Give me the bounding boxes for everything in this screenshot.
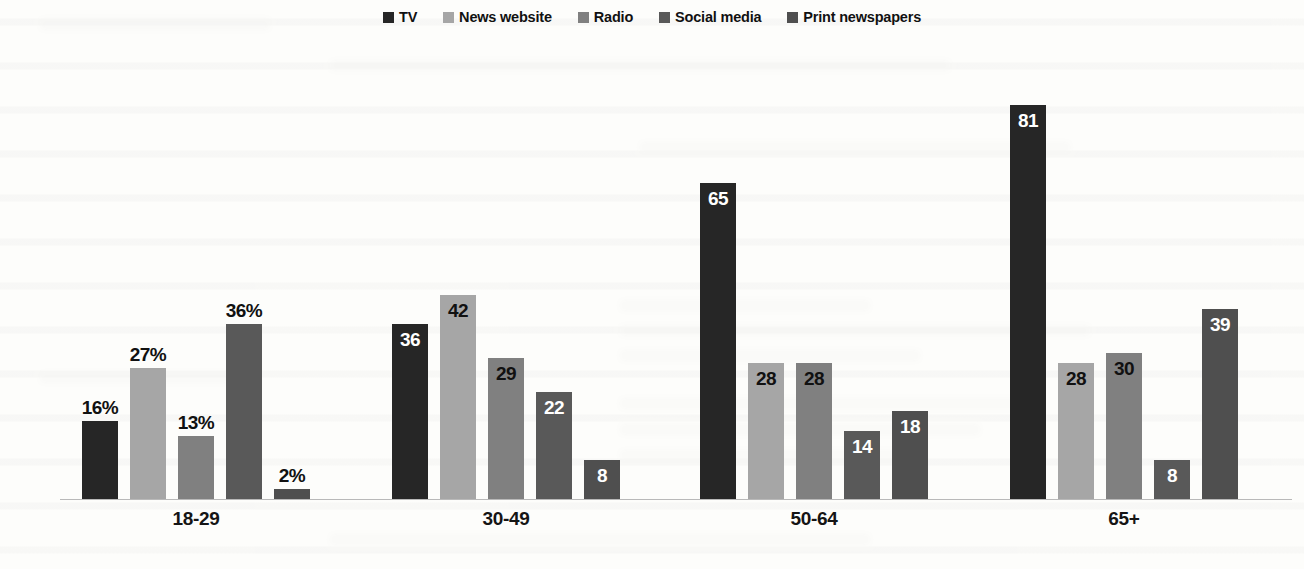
bar-18-29-tv[interactable]: 16% xyxy=(82,61,118,499)
category-label-30-49: 30-49 xyxy=(392,508,620,530)
bar-rect[interactable]: 28 xyxy=(1058,363,1094,499)
bar-value-label: 36% xyxy=(221,301,267,320)
bar-rect[interactable]: 8 xyxy=(1154,460,1190,499)
x-axis-category-labels: 18-2930-4950-6465+ xyxy=(0,508,1304,548)
legend-swatch-radio xyxy=(578,12,589,23)
bar-group-30-49: 364229228 xyxy=(392,61,620,499)
legend-item-radio[interactable]: Radio xyxy=(578,9,633,25)
bar-rect[interactable]: 81 xyxy=(1010,105,1046,499)
bar-30-49-print-newspapers[interactable]: 8 xyxy=(584,61,620,499)
bar-group-bars: 16%27%13%36%2% xyxy=(82,61,310,499)
legend-label: Social media xyxy=(675,9,761,25)
legend-item-print-newspapers[interactable]: Print newspapers xyxy=(787,9,921,25)
category-label-50-64: 50-64 xyxy=(700,508,928,530)
bar-rect[interactable]: 36 xyxy=(392,324,428,499)
bar-50-64-tv[interactable]: 65 xyxy=(700,61,736,499)
category-label-18-29: 18-29 xyxy=(82,508,310,530)
bar-value-label: 36 xyxy=(387,330,433,349)
bar-rect[interactable]: 39 xyxy=(1202,309,1238,499)
bar-18-29-social-media[interactable]: 36% xyxy=(226,61,262,499)
bar-rect[interactable]: 65 xyxy=(700,183,736,499)
bar-65+-print-newspapers[interactable]: 39 xyxy=(1202,61,1238,499)
grouped-bar-chart: TVNews websiteRadioSocial mediaPrint new… xyxy=(0,0,1304,569)
bar-rect[interactable]: 13% xyxy=(178,436,214,499)
bar-group-50-64: 6528281418 xyxy=(700,61,928,499)
legend-swatch-tv xyxy=(383,12,394,23)
legend-item-social-media[interactable]: Social media xyxy=(659,9,761,25)
legend-swatch-social-media xyxy=(659,12,670,23)
bar-value-label: 14 xyxy=(839,437,885,456)
legend-swatch-print-newspapers xyxy=(787,12,798,23)
bar-rect[interactable]: 18 xyxy=(892,411,928,499)
bar-50-64-radio[interactable]: 28 xyxy=(796,61,832,499)
bar-65+-news-website[interactable]: 28 xyxy=(1058,61,1094,499)
bar-rect[interactable]: 28 xyxy=(796,363,832,499)
bar-rect[interactable]: 29 xyxy=(488,358,524,499)
bar-rect[interactable]: 36% xyxy=(226,324,262,499)
legend-label: News website xyxy=(459,9,552,25)
bar-value-label: 29 xyxy=(483,364,529,383)
bar-value-label: 28 xyxy=(791,369,837,388)
bar-18-29-print-newspapers[interactable]: 2% xyxy=(274,61,310,499)
legend-swatch-news-website xyxy=(443,12,454,23)
bar-group-18-29: 16%27%13%36%2% xyxy=(82,61,310,499)
bar-rect[interactable]: 2% xyxy=(274,489,310,499)
plot-area: 16%27%13%36%2%36422922865282814188128308… xyxy=(0,60,1304,500)
bar-group-65+: 812830839 xyxy=(1010,61,1238,499)
bar-50-64-print-newspapers[interactable]: 18 xyxy=(892,61,928,499)
bar-value-label: 22 xyxy=(531,398,577,417)
bar-50-64-social-media[interactable]: 14 xyxy=(844,61,880,499)
bar-rect[interactable]: 42 xyxy=(440,295,476,499)
bar-rect[interactable]: 16% xyxy=(82,421,118,499)
bar-value-label: 28 xyxy=(743,369,789,388)
bar-value-label: 18 xyxy=(887,417,933,436)
bar-value-label: 65 xyxy=(695,189,741,208)
bar-30-49-news-website[interactable]: 42 xyxy=(440,61,476,499)
legend-label: Print newspapers xyxy=(803,9,921,25)
bar-18-29-radio[interactable]: 13% xyxy=(178,61,214,499)
bar-group-bars: 812830839 xyxy=(1010,61,1238,499)
bar-value-label: 39 xyxy=(1197,315,1243,334)
bar-value-label: 13% xyxy=(173,413,219,432)
bar-rect[interactable]: 30 xyxy=(1106,353,1142,499)
chart-legend: TVNews websiteRadioSocial mediaPrint new… xyxy=(0,5,1304,29)
bar-30-49-social-media[interactable]: 22 xyxy=(536,61,572,499)
bar-30-49-tv[interactable]: 36 xyxy=(392,61,428,499)
bar-rect[interactable]: 27% xyxy=(130,368,166,499)
category-label-65+: 65+ xyxy=(1010,508,1238,530)
bar-value-label: 8 xyxy=(1149,466,1195,485)
bar-value-label: 81 xyxy=(1005,111,1051,130)
bar-18-29-news-website[interactable]: 27% xyxy=(130,61,166,499)
legend-label: TV xyxy=(399,9,417,25)
bar-rect[interactable]: 22 xyxy=(536,392,572,499)
bar-65+-radio[interactable]: 30 xyxy=(1106,61,1142,499)
bar-50-64-news-website[interactable]: 28 xyxy=(748,61,784,499)
legend-item-news-website[interactable]: News website xyxy=(443,9,552,25)
bar-rect[interactable]: 8 xyxy=(584,460,620,499)
legend-label: Radio xyxy=(594,9,633,25)
bar-value-label: 30 xyxy=(1101,359,1147,378)
bar-65+-social-media[interactable]: 8 xyxy=(1154,61,1190,499)
bar-value-label: 28 xyxy=(1053,369,1099,388)
bar-group-bars: 364229228 xyxy=(392,61,620,499)
bar-30-49-radio[interactable]: 29 xyxy=(488,61,524,499)
bar-group-bars: 6528281418 xyxy=(700,61,928,499)
bar-rect[interactable]: 28 xyxy=(748,363,784,499)
bar-65+-tv[interactable]: 81 xyxy=(1010,61,1046,499)
bar-value-label: 2% xyxy=(269,466,315,485)
legend-item-tv[interactable]: TV xyxy=(383,9,417,25)
bar-value-label: 42 xyxy=(435,301,481,320)
bar-rect[interactable]: 14 xyxy=(844,431,880,499)
bar-value-label: 27% xyxy=(125,345,171,364)
bar-value-label: 16% xyxy=(77,398,123,417)
bar-value-label: 8 xyxy=(579,466,625,485)
x-axis-line xyxy=(60,499,1292,500)
